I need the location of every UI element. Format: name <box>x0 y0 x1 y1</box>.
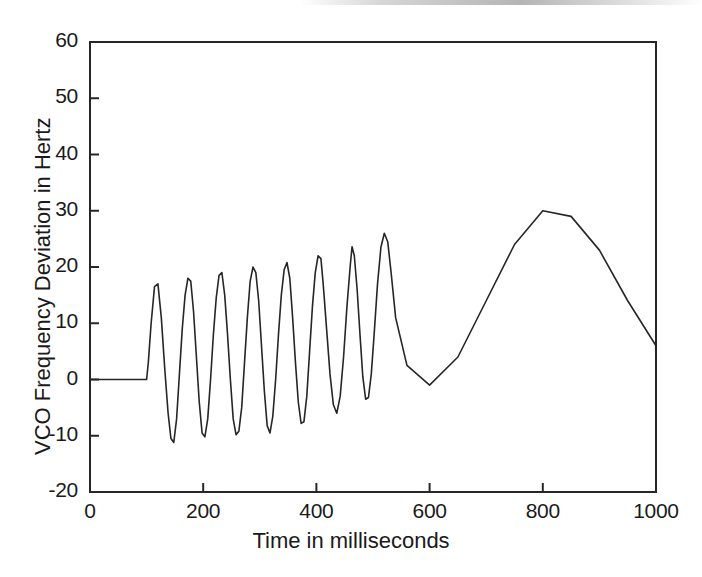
y-tick-label: 60 <box>14 28 78 52</box>
figure-canvas: -20-100102030405060 02004006008001000 Ti… <box>0 0 702 577</box>
x-tick-label: 1000 <box>611 499 701 523</box>
x-tick-marks <box>90 483 656 492</box>
data-series-line <box>90 211 656 443</box>
x-tick-label: 200 <box>158 499 248 523</box>
y-axis-label: VCO Frequency Deviation in Hertz <box>30 118 56 455</box>
x-tick-label: 0 <box>45 499 135 523</box>
x-axis-label: Time in milliseconds <box>0 528 702 554</box>
y-tick-label: 50 <box>14 84 78 108</box>
plot-svg <box>0 0 702 577</box>
x-tick-label: 800 <box>498 499 588 523</box>
x-tick-label: 400 <box>271 499 361 523</box>
y-tick-marks <box>90 42 99 492</box>
axes-box <box>90 42 656 492</box>
x-tick-label: 600 <box>385 499 475 523</box>
